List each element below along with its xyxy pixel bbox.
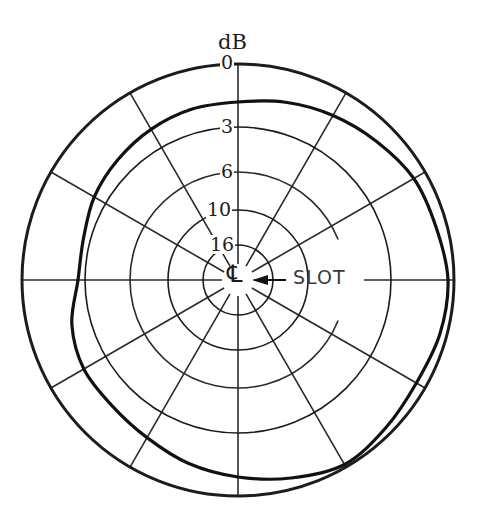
slot-label: SLOT xyxy=(293,266,346,288)
ring-label-0: 0 xyxy=(220,53,234,72)
slot-arrow-icon xyxy=(252,275,286,285)
ring-label-10: 10 xyxy=(206,200,232,219)
radiation-pattern-curve xyxy=(72,101,448,479)
ring-label-16: 16 xyxy=(209,235,235,254)
centerline-icon: ℄ xyxy=(227,260,242,288)
ring-label-6: 6 xyxy=(220,162,234,181)
ring-label-3: 3 xyxy=(220,117,234,136)
